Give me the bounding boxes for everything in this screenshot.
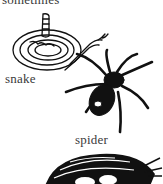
label-spider: spider: [75, 133, 108, 146]
nest-illustration: [40, 150, 163, 184]
spider-illustration: [62, 48, 162, 138]
label-snake: snake: [5, 72, 36, 85]
caption-sometimes: sometimes: [2, 0, 59, 6]
